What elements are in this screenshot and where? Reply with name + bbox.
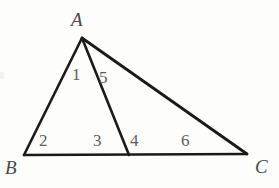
geometry-figure: A B C 1 5 2 3 4 6 [0,0,279,188]
vertex-label-A: A [71,10,83,29]
triangle-diagram-svg [0,0,279,188]
angle-label-4: 4 [130,132,139,149]
angle-label-3: 3 [93,132,102,149]
angle-label-2: 2 [39,132,48,149]
angle-label-1: 1 [72,66,81,83]
segment-AB [24,38,82,155]
segment-BC [24,154,247,155]
angle-label-5: 5 [99,69,108,86]
segment-AC [82,38,247,154]
vertex-label-C: C [255,157,268,176]
angle-label-6: 6 [181,132,190,149]
vertex-label-B: B [5,158,17,177]
